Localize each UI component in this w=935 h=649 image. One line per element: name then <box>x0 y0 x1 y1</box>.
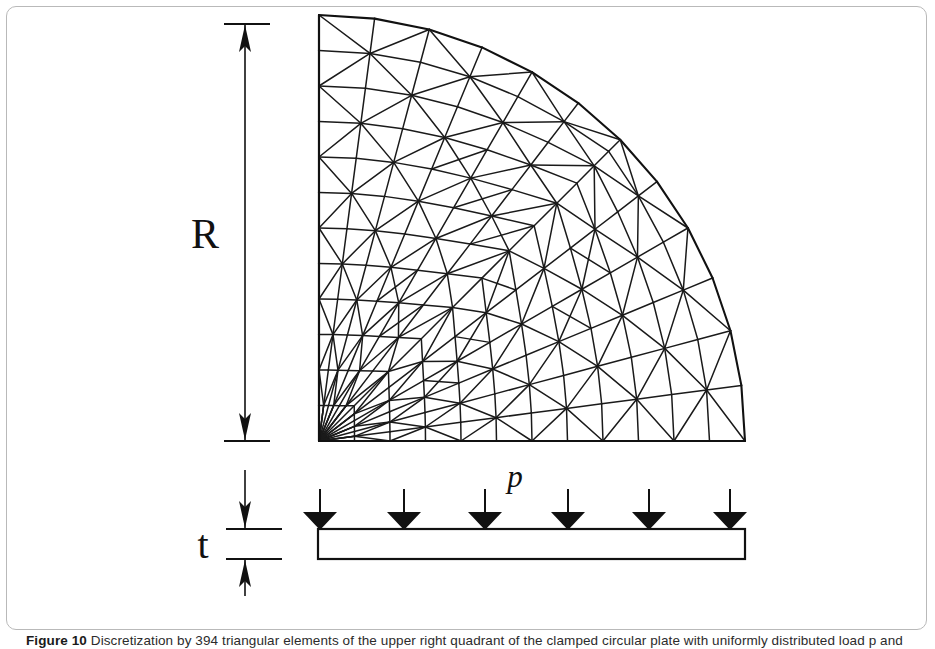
mesh-radial-edge <box>707 385 742 390</box>
mesh-ring-edge <box>421 339 422 362</box>
mesh-radial-edge <box>482 251 509 278</box>
mesh-rim-edge <box>375 19 430 30</box>
mesh-ring-edge <box>453 307 455 336</box>
mesh-ring-edge <box>460 403 461 422</box>
mesh-ring-edge <box>492 216 535 226</box>
mesh-diagonal-edge <box>509 251 544 269</box>
mesh-diagonal-edge <box>603 399 637 441</box>
mesh-radial-edge <box>618 196 639 212</box>
mesh-radial-edge <box>342 229 347 264</box>
pressure-load-arrows: p <box>303 459 747 530</box>
mesh-radial-edge <box>470 47 482 76</box>
mesh-ring-edge <box>707 390 710 441</box>
mesh-ring-edge <box>534 226 544 269</box>
mesh-ring-edge <box>512 190 557 204</box>
mesh-radial-edge <box>390 413 425 422</box>
mesh-radial-edge <box>347 300 356 335</box>
mesh-diagonal-edge <box>522 324 559 342</box>
mesh-ring-edge <box>567 408 568 441</box>
mesh-diagonal-edge <box>424 361 457 397</box>
mesh-diagonal-edge <box>531 165 594 166</box>
mesh-radial-edge <box>582 273 610 289</box>
finite-element-mesh <box>319 15 745 441</box>
mesh-diagonal-edge <box>394 162 419 201</box>
mesh-ring-edge <box>361 123 403 128</box>
mesh-rim-edge <box>319 15 375 19</box>
mesh-ring-edge <box>436 238 470 244</box>
mesh-diagonal-edge <box>594 166 638 196</box>
mesh-radial-edge <box>594 151 609 166</box>
mesh-ring-edge <box>347 335 362 336</box>
mesh-ring-edge <box>591 328 598 366</box>
mesh-radial-edge <box>522 306 553 324</box>
mesh-radial-edge <box>638 182 657 196</box>
mesh-diagonal-edge <box>412 77 470 96</box>
mesh-radial-edge <box>567 404 602 409</box>
mesh-diagonal-edge <box>319 86 361 123</box>
mesh-ring-edge <box>459 383 460 403</box>
mesh-radial-edge <box>453 278 482 307</box>
mesh-diagonal-edge <box>637 196 638 257</box>
mesh-ring-edge <box>548 142 594 166</box>
mesh-ring-edge <box>375 231 404 234</box>
mesh-diagonal-edge <box>445 123 503 138</box>
mesh-diagonal-edge <box>436 238 447 273</box>
mesh-radial-edge <box>557 183 577 203</box>
mesh-diagonal-edge <box>319 123 361 157</box>
mesh-rim-edge <box>482 47 532 72</box>
plate-cross-section <box>318 529 745 559</box>
mesh-radial-edge <box>602 399 637 404</box>
mesh-diagonal-edge <box>638 196 688 228</box>
mesh-diagonal-edge <box>622 257 637 315</box>
mesh-diagonal-edge <box>707 390 745 441</box>
mesh-ring-edge <box>423 362 424 381</box>
mesh-rim-edge <box>532 72 578 103</box>
mesh-radial-edge <box>424 361 458 380</box>
mesh-ring-edge <box>598 366 602 403</box>
mesh-diagonal-edge <box>665 290 684 348</box>
thickness-dimension: t <box>197 470 282 596</box>
mesh-diagonal-edge <box>470 72 532 77</box>
mesh-diagonal-edge <box>493 369 530 385</box>
mesh-refinement-edge <box>424 381 459 383</box>
mesh-ring-edge <box>509 251 516 290</box>
mesh-ring-edge <box>638 196 663 242</box>
mesh-ring-edge <box>457 361 459 383</box>
mesh-radial-edge <box>352 158 357 193</box>
mesh-diagonal-edge <box>598 315 623 366</box>
mesh-ring-edge <box>683 290 697 339</box>
mesh-ring-edge <box>595 229 610 273</box>
mesh-radial-edge <box>394 129 403 163</box>
mesh-radial-edge <box>518 72 532 97</box>
load-arrow <box>303 489 337 530</box>
mesh-ring-edge <box>544 268 552 306</box>
mesh-radial-edge <box>459 369 493 383</box>
mesh-ring-edge <box>470 244 509 251</box>
mesh-radial-edge <box>665 340 698 349</box>
mesh-diagonal-edge <box>352 193 376 230</box>
mesh-ring-edge <box>454 208 492 216</box>
mesh-diagonal-edge <box>361 95 412 123</box>
mesh-radial-edge <box>672 390 707 395</box>
mesh-ring-edge <box>363 336 380 337</box>
mesh-diagonal-edge <box>707 331 731 390</box>
mesh-diagonal-edge <box>424 397 460 403</box>
mesh-diagonal-edge <box>637 348 665 399</box>
mesh-radial-edge <box>365 53 370 88</box>
mesh-ring-edge <box>319 122 361 124</box>
mesh-ring-edge <box>455 337 457 362</box>
mesh-ring-edge <box>405 234 436 239</box>
mesh-diagonal-edge <box>492 203 557 216</box>
mesh-ring-edge <box>495 394 496 418</box>
mesh-ring-edge <box>564 375 567 408</box>
mesh-radial-edge <box>637 242 663 257</box>
mesh-ring-edge <box>594 166 618 212</box>
mesh-diagonal-edge <box>319 228 342 264</box>
mesh-ring-edge <box>347 229 375 231</box>
pressure-label: p <box>505 459 523 494</box>
mesh-radial-edge <box>490 324 522 342</box>
mesh-rim-edge <box>657 182 688 228</box>
mesh-radial-edge <box>595 212 618 229</box>
thickness-label: t <box>197 522 208 567</box>
mesh-ring-edge <box>319 193 352 194</box>
